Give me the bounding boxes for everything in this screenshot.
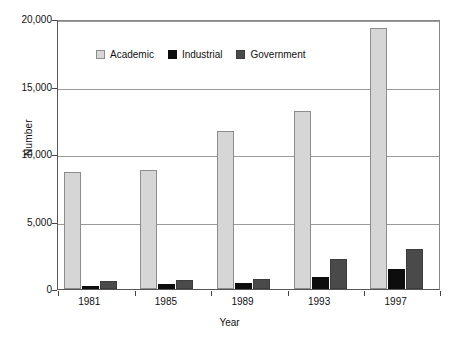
- bar-academic-1981: [64, 172, 81, 289]
- government-swatch: [236, 50, 245, 59]
- bar-government-1981: [100, 281, 117, 289]
- legend-label: Government: [250, 49, 305, 60]
- bar-industrial-1993: [312, 277, 329, 289]
- bar-group: [140, 21, 193, 289]
- y-axis-tick-label: 10,000: [6, 150, 52, 160]
- x-axis-tick-label: 1989: [213, 296, 273, 307]
- x-axis-tick-label: 1997: [366, 296, 426, 307]
- legend-label: Industrial: [182, 49, 223, 60]
- bar-group: [294, 21, 347, 289]
- bar-industrial-1997: [388, 269, 405, 289]
- x-axis-tick-label: 1993: [289, 296, 349, 307]
- bar-industrial-1981: [82, 286, 99, 289]
- bar-academic-1989: [217, 131, 234, 289]
- bar-government-1989: [253, 279, 270, 289]
- y-axis-tick-label: 15,000: [6, 83, 52, 93]
- legend-label: Academic: [110, 49, 154, 60]
- x-axis-title: Year: [0, 317, 459, 328]
- x-axis-tickmark: [440, 291, 441, 296]
- bar-government-1993: [330, 259, 347, 289]
- bar-chart: Number 05,00010,00015,00020,000 19811985…: [0, 0, 459, 341]
- bar-industrial-1989: [235, 283, 252, 289]
- y-axis-tick-label: 20,000: [6, 15, 52, 25]
- industrial-swatch: [168, 50, 177, 59]
- x-axis-tick-label: 1985: [136, 296, 196, 307]
- y-axis-tick-label: 0: [6, 285, 52, 295]
- bar-industrial-1985: [158, 284, 175, 289]
- bar-government-1997: [406, 249, 423, 290]
- bar-academic-1993: [294, 111, 311, 289]
- x-axis-tick-label: 1981: [59, 296, 119, 307]
- legend-item-government[interactable]: Government: [236, 49, 305, 60]
- plot-area: [57, 20, 440, 290]
- y-axis-tickmark: [52, 290, 57, 291]
- legend-item-industrial[interactable]: Industrial: [168, 49, 223, 60]
- bar-government-1985: [176, 280, 193, 289]
- bar-academic-1985: [140, 170, 157, 289]
- bar-academic-1997: [370, 28, 387, 289]
- bar-group: [217, 21, 270, 289]
- y-axis-tick-label: 5,000: [6, 218, 52, 228]
- bar-group: [64, 21, 117, 289]
- bar-group: [370, 21, 423, 289]
- y-axis-tick-labels: 05,00010,00015,00020,000: [0, 0, 52, 341]
- chart-legend: AcademicIndustrialGovernment: [96, 49, 306, 60]
- academic-swatch: [96, 50, 105, 59]
- legend-item-academic[interactable]: Academic: [96, 49, 154, 60]
